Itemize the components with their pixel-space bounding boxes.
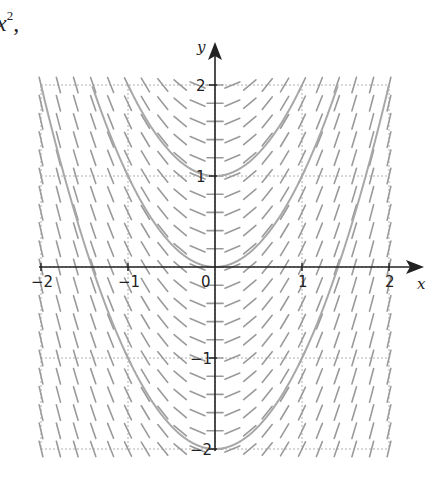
slope-segment xyxy=(91,187,96,202)
slope-segment xyxy=(352,296,357,311)
slope-segment xyxy=(370,368,374,383)
slope-segment xyxy=(244,189,256,199)
slope-segment xyxy=(280,297,288,311)
slope-segment xyxy=(56,205,60,220)
slope-segment xyxy=(74,278,79,293)
slope-segment xyxy=(316,241,322,256)
slope-segment xyxy=(334,423,339,438)
slope-segment xyxy=(91,387,96,402)
slope-segment xyxy=(352,150,357,165)
slope-segment xyxy=(316,223,322,238)
slope-segment xyxy=(141,369,149,383)
slope-segment xyxy=(352,187,357,202)
slope-segment xyxy=(352,241,357,256)
slope-segment xyxy=(108,387,114,402)
slope-segment xyxy=(56,296,60,311)
slope-segment xyxy=(334,114,339,129)
slope-segment xyxy=(280,151,288,165)
slope-segment xyxy=(334,314,339,329)
slope-segment xyxy=(299,442,306,456)
slope-segment xyxy=(91,314,96,329)
x-tick-label: 0 xyxy=(201,273,211,291)
slope-segment xyxy=(91,205,96,220)
x-tick-label: −2 xyxy=(31,273,53,291)
slope-segment xyxy=(352,132,357,147)
slope-segment xyxy=(316,296,322,311)
slope-segment xyxy=(74,223,79,238)
slope-segment xyxy=(141,278,149,292)
slope-segment xyxy=(244,407,256,417)
slope-segment xyxy=(225,209,240,215)
slope-segment xyxy=(174,189,186,199)
slope-segment xyxy=(225,337,240,343)
slope-segment xyxy=(225,118,240,124)
slope-segment xyxy=(108,187,114,202)
slope-segment xyxy=(158,243,168,256)
slope-segment xyxy=(387,150,391,166)
slope-segment xyxy=(334,150,339,165)
slope-segment xyxy=(108,278,114,293)
slope-segment xyxy=(225,228,240,234)
slope-segment xyxy=(190,155,205,161)
slope-segment xyxy=(352,168,357,183)
slope-segment xyxy=(174,371,186,381)
slope-segment xyxy=(158,388,168,401)
slope-segment xyxy=(352,96,357,111)
slope-segment xyxy=(262,297,272,310)
slope-segment xyxy=(141,187,149,201)
slope-segment xyxy=(74,132,79,147)
slope-segment xyxy=(91,278,96,293)
slope-segment xyxy=(262,315,272,328)
slope-segment xyxy=(280,406,288,420)
slope-segment xyxy=(225,428,240,434)
slope-segment xyxy=(141,406,149,420)
slope-segment xyxy=(225,410,240,416)
x-tick-label: −1 xyxy=(118,273,140,291)
slope-segment xyxy=(56,114,60,129)
slope-segment xyxy=(370,223,374,238)
slope-segment xyxy=(174,316,186,326)
slope-segment xyxy=(190,246,205,252)
slope-segment xyxy=(244,298,256,308)
slope-segment xyxy=(352,387,357,402)
slope-segment xyxy=(174,134,186,144)
slope-segment xyxy=(244,335,256,345)
slope-segment xyxy=(158,297,168,310)
slope-segment xyxy=(244,280,256,290)
slope-segment xyxy=(316,423,322,438)
slope-segment xyxy=(352,369,357,384)
slope-segment xyxy=(141,151,149,165)
slope-segment xyxy=(174,444,186,454)
slope-segment xyxy=(141,224,149,238)
slope-segment xyxy=(225,300,240,306)
slope-segment xyxy=(158,188,168,201)
slope-segment xyxy=(352,405,357,420)
slope-segment xyxy=(244,134,256,144)
slope-segment xyxy=(174,335,186,345)
slope-segment xyxy=(158,97,168,110)
slope-segment xyxy=(370,387,374,402)
slope-segment xyxy=(39,314,43,330)
slope-segment xyxy=(108,241,114,256)
slope-segment xyxy=(190,373,205,379)
slope-segment xyxy=(108,205,114,220)
slope-segment xyxy=(352,441,357,456)
slope-segment xyxy=(190,300,205,306)
slope-segment xyxy=(262,243,272,256)
slope-segment xyxy=(91,114,96,129)
slope-segment xyxy=(244,225,256,235)
slope-segment xyxy=(352,332,357,347)
slope-segment xyxy=(280,133,288,147)
slope-segment xyxy=(74,369,79,384)
slope-segment xyxy=(56,277,60,292)
slope-segment xyxy=(280,187,288,201)
slope-segment xyxy=(352,77,357,92)
slope-segment xyxy=(352,423,357,438)
slope-segment xyxy=(174,98,186,108)
y-axis-label: y xyxy=(196,38,206,56)
slope-segment xyxy=(387,387,391,403)
slope-segment xyxy=(74,423,79,438)
slope-segment xyxy=(158,115,168,128)
slope-segment xyxy=(74,387,79,402)
slope-segment xyxy=(370,186,374,201)
